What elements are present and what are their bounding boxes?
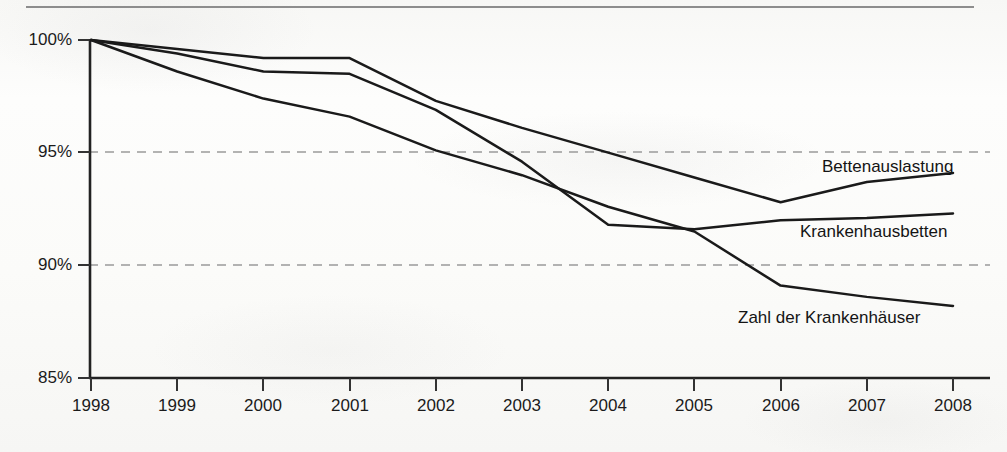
series-label-bettenauslastung: Bettenauslastung <box>822 157 953 177</box>
x-axis-label-2008: 2008 <box>908 396 998 416</box>
x-axis-label-2000: 2000 <box>218 396 308 416</box>
x-axis-label-1999: 1999 <box>132 396 222 416</box>
x-axis-label-2004: 2004 <box>563 396 653 416</box>
x-axis-label-2002: 2002 <box>391 396 481 416</box>
series-label-zahl-der-krankenhaeuser: Zahl der Krankenhäuser <box>738 308 920 328</box>
x-axis-label-2001: 2001 <box>305 396 395 416</box>
x-axis-ticks <box>91 378 953 391</box>
y-axis-label-85: 85% <box>0 368 72 388</box>
y-axis-label-90: 90% <box>0 255 72 275</box>
series-label-krankenhausbetten: Krankenhausbetten <box>800 222 947 242</box>
x-axis-label-2005: 2005 <box>649 396 739 416</box>
x-axis-label-2007: 2007 <box>822 396 912 416</box>
y-axis-label-100: 100% <box>0 30 72 50</box>
chart-page: 100% 95% 90% 85% 1998 1999 2000 2001 200… <box>0 0 1007 452</box>
x-axis-label-2003: 2003 <box>477 396 567 416</box>
y-axis-ticks <box>78 40 90 378</box>
x-axis-label-1998: 1998 <box>46 396 136 416</box>
series-line-krankenhausbetten <box>91 40 953 229</box>
series-line-bettenauslastung <box>91 40 953 202</box>
axes <box>89 39 990 379</box>
x-axis-label-2006: 2006 <box>736 396 826 416</box>
y-axis-label-95: 95% <box>0 142 72 162</box>
